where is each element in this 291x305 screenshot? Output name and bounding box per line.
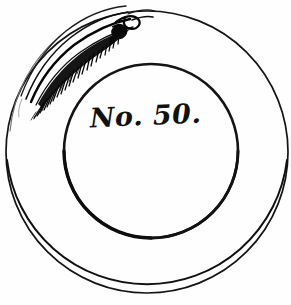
plate-drawing	[0, 0, 291, 305]
plate-engraving-figure: No. 50.	[0, 0, 291, 305]
figure-background	[0, 0, 291, 305]
